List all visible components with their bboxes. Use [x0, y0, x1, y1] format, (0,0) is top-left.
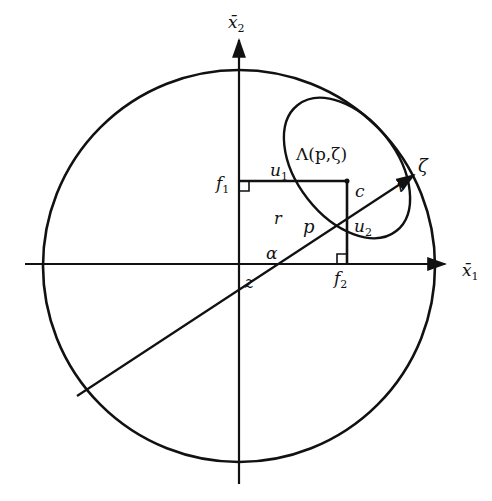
f2-label: f2 [332, 268, 347, 291]
u1-label: u1 [270, 160, 288, 183]
x1-axis-label: x̄1 [462, 260, 479, 283]
r-label: r [274, 209, 283, 228]
f1-label: f1 [214, 173, 229, 196]
alpha-label: α [266, 243, 278, 263]
v-label: v [397, 176, 407, 196]
zeta-label: ζ [418, 155, 429, 176]
right-angle-f1-marker [239, 181, 249, 191]
u2-label: u2 [354, 216, 372, 239]
x2-axis-label: x̄2 [228, 12, 245, 35]
geometry-diagram: x̄2 x̄1 ζ Λ(p,ζ) v c u1 u2 f1 f2 r p α z [0, 0, 492, 501]
c-label: c [355, 181, 365, 201]
z-label: z [244, 272, 255, 292]
lambda-label: Λ(p,ζ) [295, 144, 347, 164]
right-angle-f2-marker [337, 254, 347, 264]
point-c [345, 179, 350, 184]
p-label: p [303, 216, 315, 237]
